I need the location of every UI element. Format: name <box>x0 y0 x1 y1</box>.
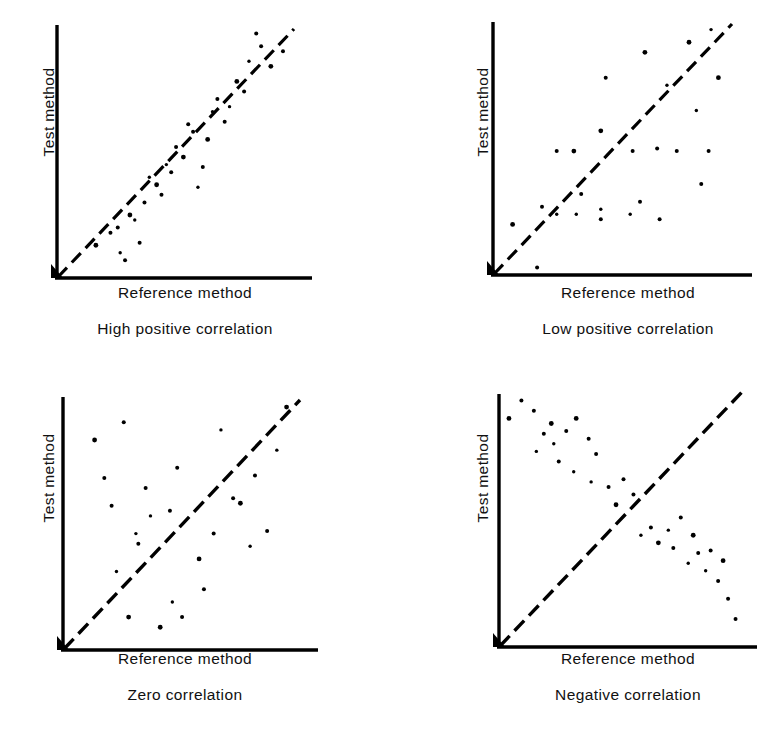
panel-negative-correlation: Test method Reference method Negative co… <box>380 366 760 732</box>
data-point <box>667 528 670 531</box>
data-point <box>215 97 219 101</box>
axes-low-positive <box>487 22 752 275</box>
data-point <box>631 149 635 153</box>
data-point <box>144 486 148 490</box>
data-point <box>699 182 703 186</box>
scatter-plot-low-positive <box>380 0 760 300</box>
data-point <box>555 213 558 216</box>
data-point <box>639 534 642 537</box>
data-point <box>589 480 592 483</box>
data-point <box>665 84 668 87</box>
data-point <box>658 217 662 221</box>
data-point <box>169 170 173 174</box>
data-point <box>671 546 675 550</box>
plot-svg-low-positive <box>380 0 760 300</box>
data-point <box>281 49 285 53</box>
data-point <box>149 514 152 517</box>
data-point <box>115 570 118 573</box>
data-point <box>154 182 159 187</box>
data-point <box>675 149 679 153</box>
data-point <box>704 569 707 572</box>
data-point <box>165 163 168 166</box>
data-point <box>622 477 626 481</box>
data-point <box>202 587 206 591</box>
data-point <box>557 460 561 464</box>
data-point <box>234 79 239 84</box>
data-point <box>116 226 120 230</box>
plot-svg-negative <box>380 366 760 666</box>
correlation-figure: Test method Reference method High positi… <box>0 0 760 733</box>
data-point <box>614 502 619 507</box>
data-point <box>721 558 726 563</box>
data-point <box>253 473 257 477</box>
data-points-high-positive <box>93 32 285 263</box>
data-point <box>211 110 214 113</box>
data-point <box>643 50 648 55</box>
data-point <box>691 533 696 538</box>
data-point <box>180 615 184 619</box>
data-point <box>238 501 243 506</box>
data-point <box>571 149 576 154</box>
data-point <box>228 105 231 108</box>
data-point <box>599 208 602 211</box>
data-point <box>564 429 568 433</box>
y-axis-label: Test method <box>36 12 62 212</box>
data-point <box>734 617 738 621</box>
data-point <box>133 218 136 221</box>
data-point <box>572 470 575 473</box>
panel-caption: Negative correlation <box>438 686 760 704</box>
panel-caption: Zero correlation <box>0 686 375 704</box>
data-point <box>631 493 635 497</box>
data-point <box>695 109 698 112</box>
panel-high-positive: Test method Reference method High positi… <box>0 0 380 366</box>
data-point <box>197 557 202 562</box>
panel-caption: Low positive correlation <box>438 320 760 338</box>
data-point <box>532 409 536 413</box>
data-point <box>181 155 186 160</box>
data-point <box>575 213 578 216</box>
data-point <box>716 579 720 583</box>
data-point <box>726 597 730 601</box>
data-point <box>142 200 146 204</box>
data-point <box>186 122 190 126</box>
data-point <box>535 450 538 453</box>
data-point <box>552 442 555 445</box>
panel-low-positive: Test method Reference method Low positiv… <box>380 0 760 366</box>
data-point <box>259 44 263 48</box>
data-point <box>594 452 598 456</box>
data-point <box>138 241 142 245</box>
data-point <box>598 128 603 133</box>
scatter-plot-negative <box>380 366 760 666</box>
data-point <box>656 540 661 545</box>
data-point <box>212 532 216 536</box>
data-point <box>102 476 106 480</box>
identity-line <box>64 400 300 649</box>
data-point <box>716 75 721 80</box>
data-point <box>108 231 112 235</box>
data-point <box>707 149 711 153</box>
data-point <box>687 561 690 564</box>
data-point <box>607 485 611 489</box>
identity-line <box>58 29 294 277</box>
data-point <box>507 416 512 421</box>
data-point <box>110 504 114 508</box>
data-point <box>136 542 140 546</box>
data-point <box>196 186 199 189</box>
y-axis-label: Test method <box>470 12 496 212</box>
data-point <box>709 548 713 552</box>
data-point <box>579 192 583 196</box>
identity-line <box>500 392 742 646</box>
x-axis-label: Reference method <box>438 284 760 302</box>
y-axis-label: Test method <box>36 378 62 578</box>
axes-high-positive <box>51 25 312 278</box>
data-point <box>205 137 210 142</box>
data-point <box>679 515 683 519</box>
data-point <box>148 176 151 179</box>
data-point <box>171 600 174 603</box>
data-point <box>127 213 132 218</box>
data-point <box>709 28 712 31</box>
data-point <box>687 40 692 45</box>
data-point <box>604 76 608 80</box>
data-point <box>158 625 163 630</box>
data-point <box>92 438 97 443</box>
